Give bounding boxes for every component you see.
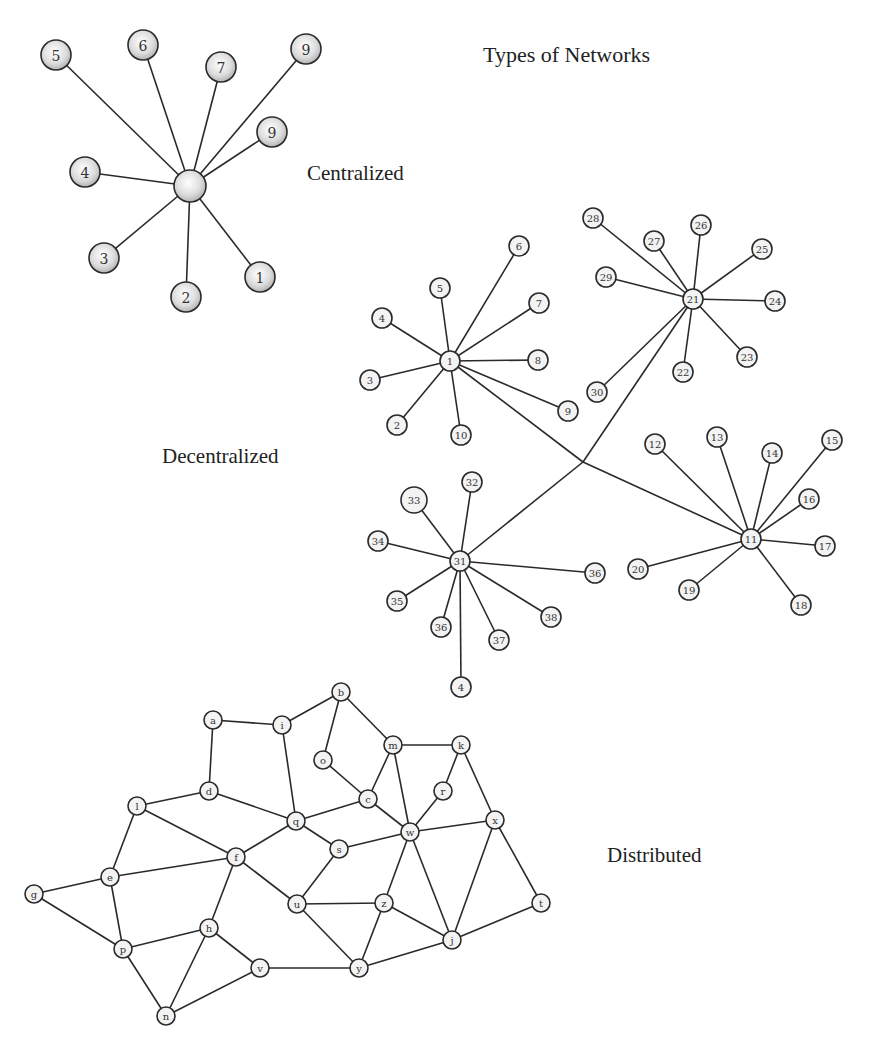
- network-node: 19: [679, 580, 699, 600]
- network-node: 1: [440, 351, 460, 371]
- network-node: 12: [645, 434, 665, 454]
- network-node: r: [434, 782, 452, 800]
- network-edge: [213, 720, 282, 725]
- network-node: 30: [587, 382, 607, 402]
- node-label: 27: [648, 236, 661, 247]
- network-edge: [693, 225, 701, 299]
- node-label: 22: [677, 367, 690, 378]
- network-edge: [382, 318, 450, 361]
- node-label: 2: [394, 420, 400, 431]
- network-edge: [461, 745, 495, 820]
- network-edge: [123, 928, 209, 949]
- network-node: t: [532, 894, 550, 912]
- node-label: 16: [803, 494, 816, 505]
- network-edge: [297, 904, 359, 968]
- network-node: g: [25, 885, 43, 903]
- node-label: 1: [447, 356, 453, 367]
- node-label: z: [381, 898, 386, 909]
- network-edge: [583, 462, 751, 539]
- network-node: p: [114, 940, 132, 958]
- network-edge: [341, 692, 393, 745]
- network-node: 34: [368, 531, 388, 551]
- network-edge: [717, 437, 751, 539]
- network-edge: [123, 949, 166, 1016]
- node-label: 26: [695, 220, 708, 231]
- network-edge: [460, 482, 472, 561]
- node-label: u: [294, 899, 301, 910]
- network-edge: [359, 940, 452, 968]
- network-node: v: [251, 959, 269, 977]
- network-node: 36: [585, 563, 605, 583]
- network-edge: [450, 246, 519, 361]
- network-node: f: [227, 848, 245, 866]
- network-node: 35: [387, 591, 407, 611]
- node-label: 14: [766, 448, 779, 459]
- network-node: b: [332, 683, 350, 701]
- network-node: 13: [707, 427, 727, 447]
- node-label: a: [210, 715, 216, 726]
- labels-layer: Types of Networks Centralized Decentrali…: [162, 42, 702, 867]
- node-label: 29: [600, 272, 613, 283]
- network-edge: [410, 820, 495, 832]
- node-label: 9: [268, 125, 277, 141]
- node-label: 12: [649, 439, 662, 450]
- network-edge: [297, 849, 339, 904]
- network-node: k: [452, 736, 470, 754]
- node-label: 18: [795, 600, 808, 611]
- network-edge: [143, 45, 190, 186]
- node-label: 37: [493, 635, 506, 646]
- network-node: n: [157, 1007, 175, 1025]
- decentralized-label: Decentralized: [162, 444, 279, 468]
- network-edge: [370, 361, 450, 380]
- node-label: 3: [100, 251, 109, 267]
- network-edge: [282, 692, 341, 725]
- network-edge: [166, 968, 260, 1016]
- node-label: 7: [536, 298, 542, 309]
- network-node: 18: [791, 595, 811, 615]
- network-node: 29: [596, 267, 616, 287]
- network-node: c: [359, 790, 377, 808]
- network-node: [174, 170, 206, 202]
- node-label: d: [206, 786, 213, 797]
- diagram-title: Types of Networks: [483, 42, 650, 67]
- node-label: 35: [391, 596, 404, 607]
- network-node: h: [200, 919, 218, 937]
- node-label: 6: [516, 241, 522, 252]
- network-edge: [166, 928, 209, 1016]
- node-label: h: [206, 923, 213, 934]
- node-label: 32: [466, 477, 479, 488]
- network-edge: [339, 832, 410, 849]
- network-edge: [384, 832, 410, 903]
- network-edge: [393, 745, 410, 832]
- node-label: 36: [435, 622, 448, 633]
- node-label: 19: [683, 585, 696, 596]
- network-node: l: [128, 797, 146, 815]
- node-label: 17: [819, 541, 832, 552]
- node-label: r: [441, 786, 446, 797]
- node-label: 3: [367, 375, 373, 386]
- network-edge: [450, 303, 539, 361]
- network-node: 7: [206, 52, 236, 82]
- network-node: 2: [171, 282, 201, 312]
- node-label: 4: [458, 682, 464, 693]
- node-label: x: [492, 815, 498, 826]
- node-label: 5: [437, 283, 443, 294]
- network-node: 22: [673, 362, 693, 382]
- network-edge: [110, 806, 137, 877]
- network-node: 37: [489, 630, 509, 650]
- network-edge: [359, 903, 384, 968]
- network-edge: [110, 877, 123, 949]
- network-node: 27: [644, 231, 664, 251]
- network-node: 6: [128, 30, 158, 60]
- network-node: s: [330, 840, 348, 858]
- node-label: 20: [632, 564, 645, 575]
- network-node: 14: [762, 443, 782, 463]
- node-label: t: [539, 898, 543, 909]
- centralized-label: Centralized: [307, 161, 404, 185]
- node-label: 15: [826, 435, 839, 446]
- node-label: y: [355, 963, 362, 974]
- network-edge: [209, 720, 213, 791]
- network-node: m: [384, 736, 402, 754]
- node-label: 33: [408, 495, 421, 506]
- node-label: b: [338, 687, 344, 698]
